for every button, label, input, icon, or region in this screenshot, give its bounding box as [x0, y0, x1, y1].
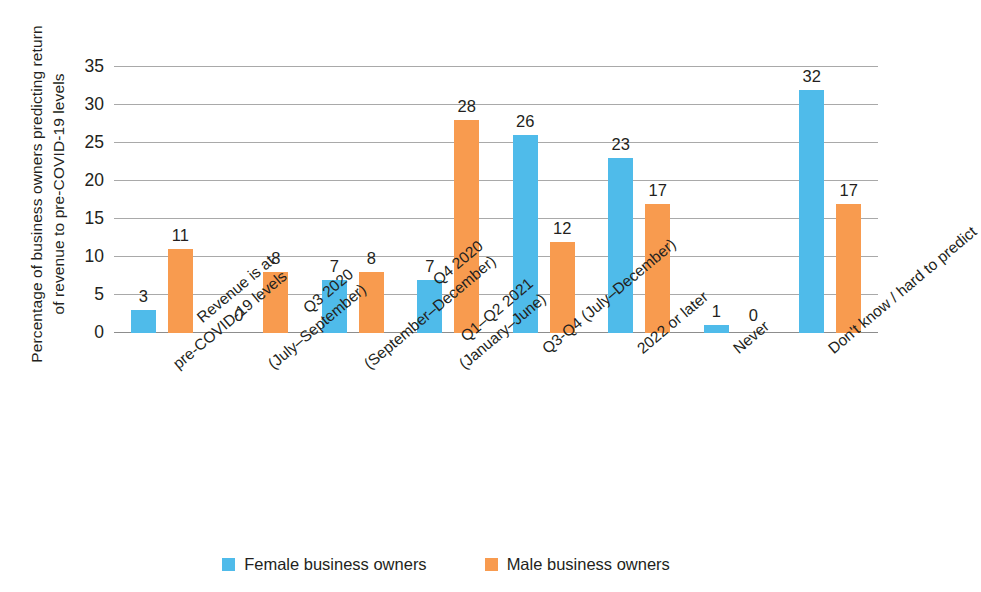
legend-label-female: Female business owners — [244, 556, 427, 573]
y-tick-label-30: 30 — [60, 96, 104, 114]
bar-female-0 — [131, 310, 156, 333]
y-tick-label-0: 0 — [60, 324, 104, 342]
y-axis-title-line-1: Percentage of business owners predicting… — [26, 25, 48, 362]
legend-item-female[interactable]: Female business owners — [222, 556, 427, 573]
y-tick-label-25: 25 — [60, 134, 104, 152]
bar-value-male-5: 17 — [649, 182, 667, 199]
chart-legend: Female business ownersMale business owne… — [0, 556, 892, 573]
gridline-15 — [114, 218, 878, 219]
bar-value-male-2: 8 — [367, 250, 376, 267]
bar-value-male-0: 11 — [172, 227, 189, 244]
legend-item-male[interactable]: Male business owners — [485, 556, 670, 573]
y-tick-label-35: 35 — [60, 58, 104, 76]
legend-label-male: Male business owners — [507, 556, 670, 573]
gridline-20 — [114, 180, 878, 181]
bar-value-female-6: 1 — [712, 303, 721, 320]
bar-female-6 — [704, 325, 729, 333]
bar-value-male-4: 12 — [553, 220, 571, 237]
y-tick-label-20: 20 — [60, 172, 104, 190]
gridline-25 — [114, 142, 878, 143]
bar-value-female-5: 23 — [612, 136, 630, 153]
bar-value-female-4: 26 — [516, 113, 534, 130]
bar-female-7 — [799, 90, 824, 333]
legend-swatch-male-icon — [485, 558, 498, 571]
y-tick-label-15: 15 — [60, 210, 104, 228]
legend-swatch-female-icon — [222, 558, 235, 571]
bar-value-female-0: 3 — [139, 288, 148, 305]
bar-value-female-7: 32 — [803, 68, 821, 85]
gridline-30 — [114, 104, 878, 105]
bar-value-male-7: 17 — [840, 182, 858, 199]
y-tick-label-5: 5 — [60, 286, 104, 304]
gridline-10 — [114, 256, 878, 257]
gridline-35 — [114, 66, 878, 67]
bar-value-male-3: 28 — [458, 98, 476, 115]
y-tick-label-10: 10 — [60, 248, 104, 266]
